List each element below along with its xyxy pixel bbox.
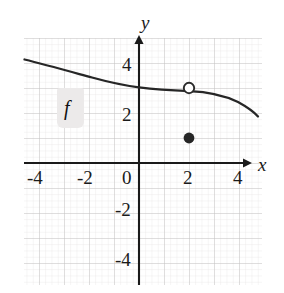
function-graph-figure: f y x -4 -2 0 2 4 4 2 -2 -4 xyxy=(0,0,284,293)
closed-circle-point xyxy=(184,133,195,144)
y-tick-label--4: -4 xyxy=(115,250,131,269)
graph-canvas xyxy=(0,0,284,293)
x-tick-label-0: 0 xyxy=(122,168,132,187)
x-axis-label: x xyxy=(258,155,266,174)
x-tick-label--2: -2 xyxy=(77,168,93,187)
grid-layer xyxy=(24,38,262,285)
y-tick-label-2: 2 xyxy=(122,105,132,124)
y-tick-label-4: 4 xyxy=(122,55,132,74)
function-label-callout xyxy=(57,88,84,128)
x-tick-label-4: 4 xyxy=(233,168,243,187)
open-circle-point xyxy=(184,83,194,93)
x-tick-label--4: -4 xyxy=(27,168,43,187)
function-label-f: f xyxy=(64,98,70,118)
y-axis-label: y xyxy=(141,13,149,32)
x-tick-label-2: 2 xyxy=(183,168,193,187)
y-tick-label--2: -2 xyxy=(115,200,131,219)
